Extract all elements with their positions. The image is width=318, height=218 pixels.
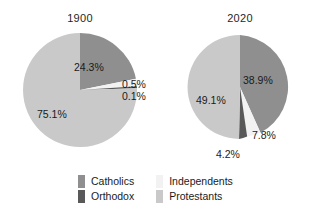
legend-label-independents: Independents bbox=[169, 175, 233, 188]
slice-label-2020-independents: 7.8% bbox=[252, 129, 276, 141]
chart-title-2020: 2020 bbox=[196, 12, 284, 24]
legend-swatch-independents bbox=[156, 175, 163, 188]
legend: Catholics Independents Orthodox Protesta… bbox=[78, 174, 233, 204]
pie-chart-1900 bbox=[22, 32, 138, 148]
slice-label-2020-orthodox: 4.2% bbox=[216, 148, 240, 160]
legend-swatch-protestants bbox=[156, 190, 163, 203]
legend-item-protestants: Protestants bbox=[156, 189, 233, 204]
slice-label-1900-catholics: 24.3% bbox=[74, 61, 104, 73]
legend-swatch-orthodox bbox=[78, 190, 85, 203]
pie-slice-2020-protestants bbox=[188, 35, 240, 139]
pie-svg-1900 bbox=[22, 32, 138, 148]
legend-swatch-catholics bbox=[78, 175, 85, 188]
legend-label-protestants: Protestants bbox=[169, 190, 222, 203]
legend-item-catholics: Catholics bbox=[78, 174, 134, 189]
slice-label-1900-orthodox: 0.1% bbox=[122, 90, 146, 102]
slice-label-2020-catholics: 38.9% bbox=[243, 74, 273, 86]
legend-item-independents: Independents bbox=[156, 174, 233, 189]
slice-label-1900-independents: 0.5% bbox=[122, 78, 146, 90]
pie-chart-2020 bbox=[187, 34, 293, 140]
pie-svg-2020 bbox=[187, 34, 293, 140]
slice-label-2020-protestants: 49.1% bbox=[196, 94, 226, 106]
legend-label-catholics: Catholics bbox=[91, 175, 134, 188]
slice-label-1900-protestants: 75.1% bbox=[37, 108, 67, 120]
pie-chart-figure: 1900 24.3% 75.1% 0.5% 0.1% 2020 38.9% 49… bbox=[0, 0, 318, 218]
legend-label-orthodox: Orthodox bbox=[91, 190, 134, 203]
chart-title-1900: 1900 bbox=[36, 12, 124, 24]
legend-item-orthodox: Orthodox bbox=[78, 189, 134, 204]
